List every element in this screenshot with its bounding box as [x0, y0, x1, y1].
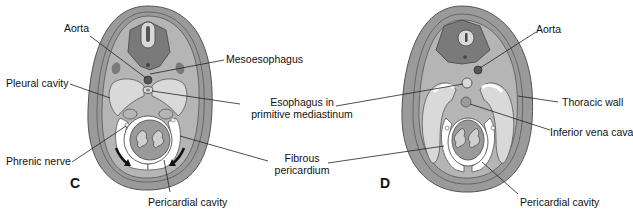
- label-d-thoracic-wall: Thoracic wall: [562, 96, 623, 108]
- label-esophagus-line2: primitive mediastinum: [250, 108, 354, 120]
- label-esophagus-primitive-mediastinum: Esophagus in primitive mediastinum: [250, 96, 354, 120]
- label-esophagus-line1: Esophagus in: [250, 96, 354, 108]
- label-fibrous-pericardium: Fibrous pericardium: [268, 152, 336, 176]
- label-fibrous-line2: pericardium: [268, 164, 336, 176]
- label-d-aorta: Aorta: [536, 23, 561, 35]
- label-c-pericardial-cavity: Pericardial cavity: [148, 196, 227, 208]
- label-c-pleural-cavity: Pleural cavity: [6, 77, 68, 89]
- label-c-phrenic-nerve: Phrenic nerve: [6, 155, 71, 167]
- panel-letter-d: D: [380, 175, 390, 191]
- label-fibrous-line1: Fibrous: [268, 152, 336, 164]
- label-d-pericardial-cavity: Pericardial cavity: [520, 196, 599, 208]
- panel-d-cross-section: [402, 6, 533, 192]
- label-c-aorta: Aorta: [64, 22, 89, 34]
- label-c-mesoesophagus: Mesoesophagus: [226, 53, 303, 65]
- label-d-inferior-vena-cava: Inferior vena cava: [550, 126, 633, 138]
- panel-letter-c: C: [70, 175, 80, 191]
- panel-c-cross-section: [88, 6, 212, 190]
